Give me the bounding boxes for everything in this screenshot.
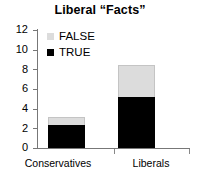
chart-legend: FALSE TRUE	[47, 29, 95, 61]
x-tick-mark-end	[189, 149, 190, 154]
bar-segment-true-liberals	[118, 97, 155, 148]
y-tick-label-8: 8	[0, 64, 31, 75]
y-axis-tick-labels: 12 10 8 6 4 2 0	[0, 0, 31, 182]
y-tick-label-6: 6	[0, 83, 31, 94]
legend-swatch-false-icon	[47, 33, 54, 40]
bar-liberals[interactable]	[118, 65, 155, 148]
x-category-label-liberals: Liberals	[112, 157, 190, 169]
y-tick-label-10: 10	[0, 44, 31, 55]
y-tick-label-2: 2	[0, 123, 31, 134]
bar-segment-false-conservatives	[48, 117, 85, 125]
y-tick-label-12: 12	[0, 24, 31, 35]
bar-segment-false-liberals	[118, 65, 155, 96]
bar-segment-true-conservatives	[48, 125, 85, 148]
legend-swatch-true-icon	[47, 49, 54, 56]
legend-label-false: FALSE	[59, 30, 95, 42]
y-tick-label-0: 0	[0, 142, 31, 153]
legend-item-true[interactable]: TRUE	[47, 45, 95, 59]
legend-item-false[interactable]: FALSE	[47, 29, 95, 43]
legend-label-true: TRUE	[59, 46, 90, 58]
y-tick-label-4: 4	[0, 103, 31, 114]
x-tick-mark-category-divider	[114, 149, 115, 154]
bar-conservatives[interactable]	[48, 117, 85, 148]
chart-container: Liberal “Facts” 12 10 8 6 4 2 0 FAL	[0, 0, 200, 182]
x-category-label-conservatives: Conservatives	[18, 157, 98, 169]
